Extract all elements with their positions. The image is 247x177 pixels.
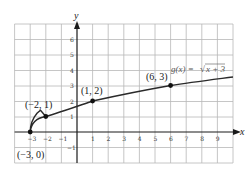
sqrt-icon: √ xyxy=(200,64,205,74)
svg-text:x + 3: x + 3 xyxy=(205,64,226,74)
x-axis-label: x xyxy=(239,126,245,137)
svg-text:5: 5 xyxy=(70,51,74,58)
point-label-1-2: (1, 2) xyxy=(81,85,103,97)
svg-text:−2: −2 xyxy=(43,135,52,142)
svg-text:2: 2 xyxy=(107,135,111,142)
point-1-2 xyxy=(90,99,95,104)
point-label-neg3-0: (−3, 0) xyxy=(17,149,44,161)
svg-text:6: 6 xyxy=(169,135,173,142)
grid xyxy=(15,24,233,163)
function-label: g(x) = √ x + 3 xyxy=(171,64,226,74)
svg-text:1: 1 xyxy=(70,113,74,120)
y-tick-labels: 6 5 4 3 2 1 −1 xyxy=(67,36,76,151)
function-graph: x y −3 −2 −1 1 2 3 4 5 6 7 8 9 6 5 4 3 2… xyxy=(0,0,247,177)
svg-text:4: 4 xyxy=(138,135,142,142)
point-label-neg2-1: (−2, 1) xyxy=(25,99,52,111)
point-neg3-0 xyxy=(28,130,33,135)
svg-text:8: 8 xyxy=(200,135,204,142)
svg-text:1: 1 xyxy=(91,135,95,142)
svg-text:−1: −1 xyxy=(59,135,68,142)
svg-text:3: 3 xyxy=(122,135,126,142)
svg-text:g(x) =: g(x) = xyxy=(171,64,194,74)
svg-text:−1: −1 xyxy=(67,144,76,151)
svg-text:5: 5 xyxy=(153,135,157,142)
x-tick-labels: −3 −2 −1 1 2 3 4 5 6 7 8 9 xyxy=(28,135,220,142)
svg-text:7: 7 xyxy=(185,135,189,142)
svg-text:4: 4 xyxy=(70,67,74,74)
svg-text:−3: −3 xyxy=(28,135,37,142)
svg-text:2: 2 xyxy=(70,98,74,105)
point-6-3 xyxy=(168,83,173,88)
svg-text:3: 3 xyxy=(70,82,74,89)
svg-text:6: 6 xyxy=(70,36,74,43)
function-curve xyxy=(30,77,233,132)
y-axis-label: y xyxy=(73,10,79,21)
point-label-6-3: (6, 3) xyxy=(146,71,168,83)
svg-text:9: 9 xyxy=(216,135,220,142)
y-axis-arrow-icon xyxy=(74,21,80,29)
point-neg2-1 xyxy=(43,114,48,119)
